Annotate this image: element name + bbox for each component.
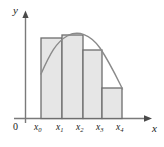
riemann-sum-figure: y x 0 x0 x1 x2 x3 x4	[0, 0, 164, 147]
tick-label-x4: x4	[116, 123, 123, 133]
tick-sub-x0: 0	[38, 126, 41, 133]
tick-label-x1: x1	[56, 123, 63, 133]
tick-sub-x1: 1	[60, 126, 63, 133]
tick-label-x2: x2	[76, 123, 83, 133]
origin-label: 0	[13, 122, 18, 132]
x-axis-arrowhead	[144, 115, 152, 121]
y-axis	[22, 11, 28, 124]
bar-4	[102, 88, 122, 119]
tick-sub-x3: 3	[100, 126, 103, 133]
riemann-rectangles	[41, 35, 122, 119]
tick-label-x0: x0	[34, 123, 41, 133]
x-axis-label: x	[152, 123, 157, 134]
tick-sub-x2: 2	[80, 126, 83, 133]
y-axis-arrowhead	[22, 11, 28, 19]
bar-1	[41, 38, 62, 119]
tick-sub-x4: 4	[120, 126, 123, 133]
bar-3	[83, 50, 102, 119]
y-axis-label: y	[13, 5, 18, 16]
bar-2	[62, 35, 83, 119]
tick-label-x3: x3	[96, 123, 103, 133]
